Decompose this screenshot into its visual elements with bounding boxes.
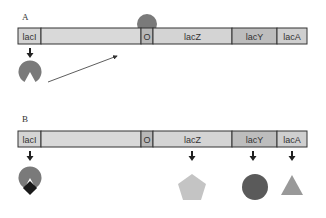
gene-label: O xyxy=(143,32,150,42)
down-arrow-icon xyxy=(289,151,296,161)
repressor-inducer-complex-icon xyxy=(19,166,42,195)
transacetylase-triangle-icon xyxy=(281,175,303,195)
gene-label: O xyxy=(143,135,150,145)
gene-label: lacI xyxy=(22,135,36,145)
panel-a-label: A xyxy=(22,12,29,22)
down-arrow-icon xyxy=(250,151,257,161)
binding-arrow-icon xyxy=(48,56,117,82)
permease-circle-icon xyxy=(242,174,268,200)
operon-bar-b: lacI O lacZ lacY lacA xyxy=(18,131,307,147)
down-arrow-icon xyxy=(27,48,34,58)
gene-label: lacI xyxy=(22,32,36,42)
panel-b-label: B xyxy=(22,114,28,124)
spacer-b xyxy=(41,131,141,147)
gene-label: lacZ xyxy=(184,32,202,42)
gene-label: lacY xyxy=(246,32,264,42)
beta-galactosidase-pentagon-icon xyxy=(178,174,206,200)
spacer-a xyxy=(41,28,141,44)
down-arrow-icon xyxy=(27,151,34,161)
operon-bar-a: lacI O lacZ lacY lacA xyxy=(18,28,307,44)
gene-label: lacA xyxy=(283,135,301,145)
down-arrow-icon xyxy=(189,151,196,161)
gene-label: lacY xyxy=(246,135,264,145)
gene-label: lacA xyxy=(283,32,301,42)
gene-label: lacZ xyxy=(184,135,202,145)
lac-operon-diagram: A lacI O lacZ lacY lacA B lacI O lacZ xyxy=(0,0,326,218)
repressor-protein-icon xyxy=(19,60,42,82)
